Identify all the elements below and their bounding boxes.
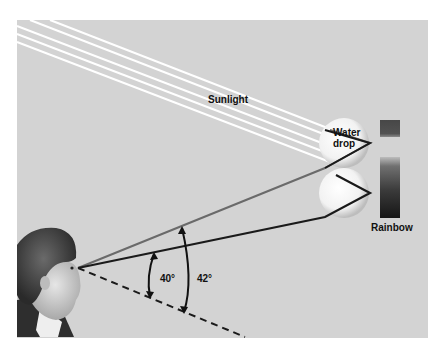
sunlight-label: Sunlight <box>208 94 249 105</box>
rainbow-label: Rainbow <box>371 222 413 233</box>
rainbow-diagram: Sunlight Water drop Rainbow 40° 42° <box>0 0 445 358</box>
water-drop-lower <box>319 168 369 218</box>
angle-42-label: 42° <box>197 273 212 284</box>
rainbow-band-upper <box>380 120 400 137</box>
rainbow-band-lower <box>380 157 400 218</box>
angle-40-label: 40° <box>160 273 175 284</box>
water-drop-label-line2: drop <box>333 138 355 149</box>
water-drop-label-line1: Water <box>333 127 361 138</box>
